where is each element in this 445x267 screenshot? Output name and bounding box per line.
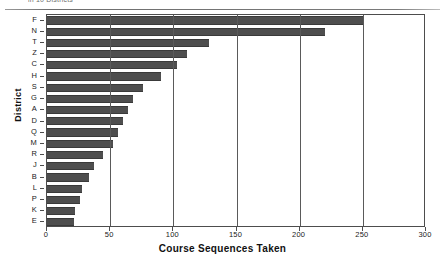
x-axis-tick-labels: 050100150200250300 [0, 230, 445, 242]
y-axis-title: District [13, 65, 23, 145]
bar-B [47, 173, 89, 181]
y-tick-mark [40, 76, 44, 77]
y-tick-label-Q: Q [31, 128, 37, 136]
x-tick-label-0: 0 [31, 230, 61, 239]
y-tick-label-Z: Z [32, 49, 37, 57]
y-tick-mark [40, 199, 44, 200]
bar-N [47, 28, 325, 36]
y-tick-label-E: E [32, 217, 37, 225]
y-tick-mark [40, 121, 44, 122]
x-tick-label-100: 100 [157, 230, 187, 239]
x-tick-mark [236, 227, 237, 231]
x-tick-label-200: 200 [284, 230, 314, 239]
y-tick-label-K: K [32, 206, 37, 214]
bar-E [47, 218, 74, 226]
bar-F [47, 16, 363, 24]
y-tick-label-S: S [32, 83, 37, 91]
y-tick-label-T: T [32, 38, 37, 46]
bar-K [47, 207, 75, 215]
header-divider [5, 9, 440, 10]
y-tick-mark [40, 42, 44, 43]
y-tick-label-P: P [32, 195, 37, 203]
y-tick-label-L: L [33, 184, 37, 192]
bar-G [47, 95, 133, 103]
y-tick-mark [40, 177, 44, 178]
x-tick-label-150: 150 [221, 230, 251, 239]
y-tick-mark [40, 31, 44, 32]
y-tick-label-A: A [32, 105, 37, 113]
y-tick-mark [40, 109, 44, 110]
bar-Z [47, 50, 187, 58]
x-tick-mark [172, 227, 173, 231]
bar-J [47, 162, 94, 170]
y-tick-label-N: N [31, 27, 37, 35]
gridline-150 [237, 15, 238, 226]
gridline-250 [363, 15, 364, 226]
y-tick-mark [40, 165, 44, 166]
x-tick-mark [46, 227, 47, 231]
bar-R [47, 151, 103, 159]
y-tick-mark [40, 188, 44, 189]
y-tick-mark [40, 64, 44, 65]
x-tick-label-300: 300 [410, 230, 440, 239]
gridline-50 [110, 15, 111, 226]
x-tick-mark [299, 227, 300, 231]
y-tick-label-C: C [31, 60, 37, 68]
y-tick-mark [40, 20, 44, 21]
y-tick-mark [40, 210, 44, 211]
y-tick-label-J: J [33, 161, 37, 169]
bar-D [47, 117, 123, 125]
x-tick-mark [362, 227, 363, 231]
bar-chart-figure: in 10 Districts FNTZCHSGADQMRJBLPKE 0501… [0, 0, 445, 267]
y-tick-mark [40, 221, 44, 222]
bar-Q [47, 128, 118, 136]
bar-rows [47, 15, 424, 226]
y-tick-label-D: D [31, 117, 37, 125]
y-tick-label-G: G [31, 94, 37, 102]
y-tick-label-R: R [31, 150, 37, 158]
y-tick-mark [40, 132, 44, 133]
gridline-100 [173, 15, 174, 226]
bar-M [47, 140, 113, 148]
y-tick-label-M: M [31, 139, 37, 147]
bar-S [47, 84, 143, 92]
y-tick-mark [40, 154, 44, 155]
bar-T [47, 39, 209, 47]
bar-L [47, 185, 82, 193]
bar-P [47, 196, 80, 204]
y-tick-mark [40, 87, 44, 88]
bar-C [47, 61, 177, 69]
x-axis-title: Course Sequences Taken [0, 243, 445, 254]
plot-area [46, 14, 425, 227]
gridline-200 [300, 15, 301, 226]
x-tick-mark [425, 227, 426, 231]
y-tick-mark [40, 98, 44, 99]
top-caption-text: in 10 Districts [28, 0, 73, 5]
x-tick-label-50: 50 [94, 230, 124, 239]
y-tick-mark [40, 53, 44, 54]
y-tick-mark [40, 143, 44, 144]
x-tick-label-250: 250 [347, 230, 377, 239]
y-tick-label-H: H [31, 72, 37, 80]
y-tick-label-F: F [32, 16, 37, 24]
bar-H [47, 72, 161, 80]
y-tick-label-B: B [32, 173, 37, 181]
x-tick-mark [109, 227, 110, 231]
bar-A [47, 106, 128, 114]
